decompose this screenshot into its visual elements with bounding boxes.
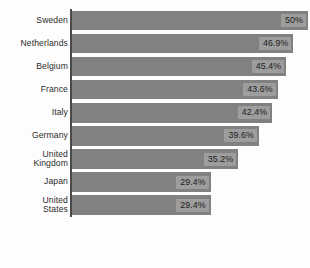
category-label: France [2,78,68,101]
bar-track: 50% [72,11,308,31]
category-label: United States [2,194,68,217]
bar-rows: Sweden50%Netherlands46.9%Belgium45.4%Fra… [0,9,310,217]
bar-track: 29.4% [72,195,308,215]
bar-value-label: 50% [281,14,306,27]
bar-track: 46.9% [72,34,308,54]
bar-row: Sweden50% [0,9,310,32]
bar-value-label: 46.9% [259,37,291,50]
bar-row: Belgium45.4% [0,55,310,78]
bar-value-label: 29.4% [176,176,208,189]
category-label: United Kingdom [2,148,68,171]
bar-value-label: 42.4% [238,106,270,119]
category-label: Sweden [2,9,68,32]
bar-value-label: 35.2% [204,153,236,166]
bar-value-label: 29.4% [176,199,208,212]
bar-row: United States29.4% [0,194,310,217]
category-label: Netherlands [2,32,68,55]
bar-value-label: 45.4% [252,60,284,73]
bar-track: 45.4% [72,57,308,77]
bar-track: 39.6% [72,126,308,146]
bar-track: 42.4% [72,103,308,123]
bar-row: United Kingdom35.2% [0,148,310,171]
bar-row: France43.6% [0,78,310,101]
bar-row: Netherlands46.9% [0,32,310,55]
bar-track: 35.2% [72,149,308,169]
category-label: Italy [2,101,68,124]
bar-value-label: 39.6% [224,129,256,142]
bar-value-label: 43.6% [243,83,275,96]
bar-row: Italy42.4% [0,101,310,124]
category-label: Belgium [2,55,68,78]
bar-row: Japan29.4% [0,171,310,194]
bar-track: 43.6% [72,80,308,100]
bar-chart: Sweden50%Netherlands46.9%Belgium45.4%Fra… [0,0,310,268]
bar-track: 29.4% [72,172,308,192]
category-label: Germany [2,124,68,147]
bar-row: Germany39.6% [0,124,310,147]
bar [72,11,308,31]
category-label: Japan [2,171,68,194]
plot-area: Sweden50%Netherlands46.9%Belgium45.4%Fra… [0,0,310,268]
